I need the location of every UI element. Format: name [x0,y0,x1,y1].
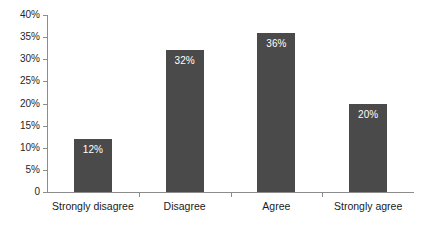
y-axis-tick-label: 35% [4,32,40,42]
y-axis-tick-label: 20% [4,99,40,109]
x-axis-category-label: Strongly disagree [47,200,139,213]
y-axis-tick-label: 10% [4,143,40,153]
y-axis-tick-label: 0 [4,187,40,197]
y-axis-tick [43,15,47,16]
bar-value-label: 20% [349,109,387,120]
y-axis-tick [43,81,47,82]
y-axis-tick-label: 40% [4,10,40,20]
x-axis-category-label: Disagree [139,200,231,213]
bar-value-label: 36% [257,38,295,49]
x-axis-tick [322,193,323,197]
y-axis-tick [43,170,47,171]
y-axis-tick [43,59,47,60]
bar [166,50,204,192]
bar-chart: 05%10%15%20%25%30%35%40% 12%32%36%20% St… [0,0,428,226]
y-axis-tick [43,148,47,149]
y-axis-tick [43,126,47,127]
y-axis-tick-label: 5% [4,165,40,175]
y-axis-tick [43,37,47,38]
y-axis-line [47,15,48,193]
bar [257,33,295,192]
y-axis-tick [43,104,47,105]
bar-value-label: 32% [166,55,204,66]
y-axis-tick-label: 25% [4,76,40,86]
x-axis-tick [231,193,232,197]
bar-value-label: 12% [74,144,112,155]
y-axis-tick-label: 15% [4,121,40,131]
x-axis-category-label: Agree [231,200,323,213]
y-axis-tick-label: 30% [4,54,40,64]
x-axis-category-label: Strongly agree [322,200,414,213]
x-axis-tick [139,193,140,197]
